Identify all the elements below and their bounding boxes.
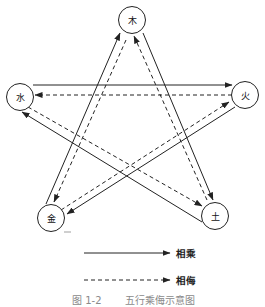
legend-item-overacting: 相乘 bbox=[84, 248, 196, 259]
figure-caption: 图 1-2 五行乘侮示意图 bbox=[72, 294, 195, 306]
edge-metal-insults-fire bbox=[61, 102, 229, 210]
legend-item-insulting: 相侮 bbox=[84, 275, 196, 286]
edge-wood-overacts-earth bbox=[143, 33, 213, 200]
node-label: 金 bbox=[47, 213, 56, 224]
node-label: 土 bbox=[211, 211, 220, 222]
edge-wood-insults-metal bbox=[54, 40, 126, 202]
node-water: 水 bbox=[7, 84, 34, 111]
edge-metal-overacts-wood bbox=[46, 33, 120, 204]
legend: 相乘 相侮 bbox=[84, 248, 196, 286]
caption-number: 图 1-2 bbox=[72, 295, 102, 306]
node-metal: 金 bbox=[38, 205, 65, 232]
caption-text: 五行乘侮示意图 bbox=[125, 294, 195, 306]
legend-label: 相侮 bbox=[176, 275, 196, 286]
edge-water-insults-earth bbox=[28, 107, 202, 206]
node-label: 木 bbox=[128, 15, 137, 26]
node-label: 火 bbox=[241, 91, 250, 101]
node-label: 水 bbox=[16, 92, 25, 103]
edges bbox=[22, 33, 235, 222]
edge-earth-insults-wood bbox=[134, 36, 207, 200]
five-elements-diagram: 木 水 火 金 土 相乘 相侮 图 1-2 五行乘侮示意图 bbox=[0, 0, 265, 307]
edge-fire-overacts-metal bbox=[67, 107, 235, 214]
node-fire: 火 bbox=[232, 82, 259, 109]
node-wood: 木 bbox=[119, 7, 146, 34]
node-earth: 土 bbox=[202, 203, 229, 230]
legend-label: 相乘 bbox=[176, 248, 196, 259]
